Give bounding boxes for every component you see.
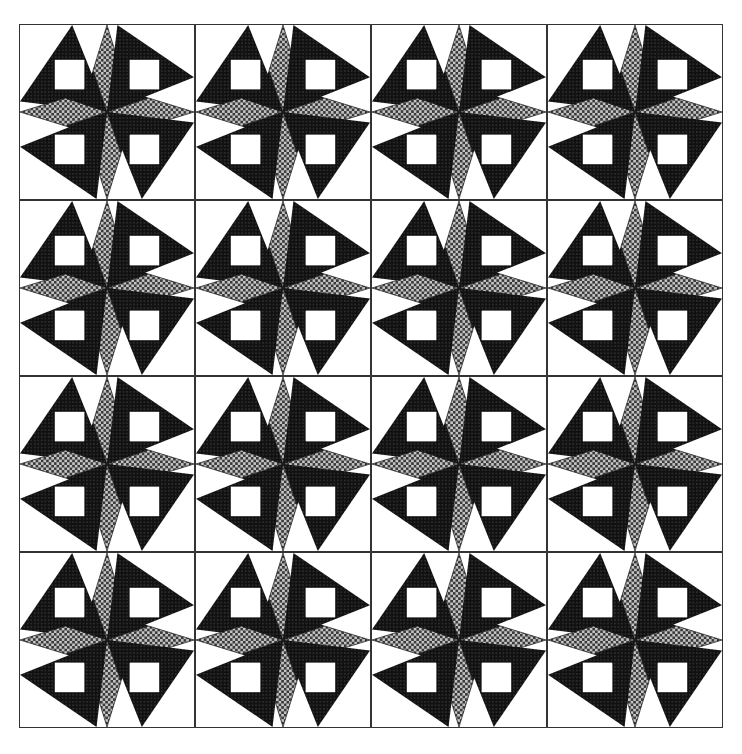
- star-block-icon: [548, 553, 722, 727]
- quilt-block: [19, 552, 195, 728]
- star-block-icon: [372, 201, 546, 375]
- quilt-block: [547, 24, 723, 200]
- star-block-icon: [548, 201, 722, 375]
- star-block-icon: [20, 553, 194, 727]
- star-block-icon: [372, 553, 546, 727]
- star-block-icon: [196, 201, 370, 375]
- quilt-block: [195, 24, 371, 200]
- quilt-block: [19, 24, 195, 200]
- star-block-icon: [548, 377, 722, 551]
- star-block-icon: [20, 201, 194, 375]
- star-block-icon: [20, 25, 194, 199]
- star-block-icon: [20, 377, 194, 551]
- quilt-grid: [19, 24, 725, 729]
- quilt-block: [547, 200, 723, 376]
- quilt-block: [371, 376, 547, 552]
- quilt-title: Quilt block pattern: [0, 0, 1, 1]
- star-block-icon: [548, 25, 722, 199]
- quilt-block: [371, 552, 547, 728]
- quilt-block: [19, 376, 195, 552]
- quilt-block: [547, 552, 723, 728]
- quilt-block: [19, 200, 195, 376]
- quilt-block: [195, 376, 371, 552]
- star-block-icon: [372, 377, 546, 551]
- star-block-icon: [196, 553, 370, 727]
- star-block-icon: [196, 377, 370, 551]
- star-block-icon: [196, 25, 370, 199]
- quilt-block: [547, 376, 723, 552]
- quilt-block: [371, 200, 547, 376]
- quilt-block: [371, 24, 547, 200]
- quilt-block: [195, 200, 371, 376]
- star-block-icon: [372, 25, 546, 199]
- quilt-block: [195, 552, 371, 728]
